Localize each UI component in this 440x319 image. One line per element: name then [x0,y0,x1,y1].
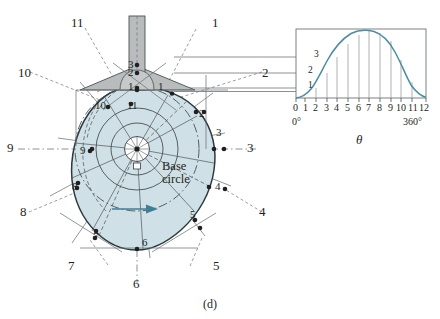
outer-label-5: 5 [213,259,220,272]
chart-xtick-3: 3 [324,103,329,113]
inner-label-3: 3 [216,127,222,138]
projection-lines [174,57,296,92]
inner-label-7: 7 [93,231,99,242]
chart-xtick-2: 2 [313,103,318,113]
inner-label-2: 2 [199,108,205,119]
outer-label-2: 2 [262,66,269,79]
inner-label-9: 9 [80,145,86,156]
inner-label-1-left: 1 [128,81,134,92]
inner-label-4: 4 [215,181,221,192]
chart-xtick-11: 11 [408,103,418,113]
chart-x-end-label: 360° [403,117,422,127]
chart-xtick-1: 1 [303,103,308,113]
stem-label-2: 2 [128,67,134,78]
base-circle-label: Base circle [162,160,190,186]
inner-label-1-right: 1 [158,81,164,92]
outer-label-11: 11 [71,16,84,29]
chart-xtick-10: 10 [396,103,406,113]
chart-xtick-5: 5 [345,103,350,113]
outer-label-6: 6 [133,277,140,290]
inner-label-8: 8 [72,181,78,192]
outer-label-7: 7 [68,259,75,272]
outer-label-1: 1 [212,16,219,29]
shaft-center [134,146,139,151]
inner-label-11: 11 [127,100,138,111]
chart-xtick-12: 12 [419,103,429,113]
inner-label-10: 10 [95,100,106,111]
chart-x-axis-label: θ [356,133,362,146]
outer-label-9: 9 [7,141,14,154]
chart-ordinate-label-1: 1 [308,81,313,91]
inner-label-6: 6 [142,237,148,248]
outer-label-10: 10 [18,66,31,79]
follower [80,16,195,90]
outer-label-4: 4 [259,205,266,218]
chart-xtick-9: 9 [388,103,393,113]
chart-ordinate-label-2: 2 [308,66,313,76]
chart-x-start-label: 0° [292,117,301,127]
inner-label-5: 5 [190,209,196,220]
figure-caption: (d) [203,298,217,310]
cam-design-figure [0,0,440,319]
chart-xtick-7: 7 [366,103,371,113]
chart-ordinate-label-3: 3 [314,50,319,60]
chart-xtick-0: 0 [293,103,298,113]
outer-label-3-right: 3 [247,141,254,154]
outer-label-8: 8 [20,205,27,218]
chart-xtick-8: 8 [377,103,382,113]
chart-xtick-4: 4 [334,103,339,113]
displacement-diagram [174,29,426,102]
keyway [134,163,141,169]
chart-xtick-6: 6 [356,103,361,113]
chart-frame [296,29,426,98]
